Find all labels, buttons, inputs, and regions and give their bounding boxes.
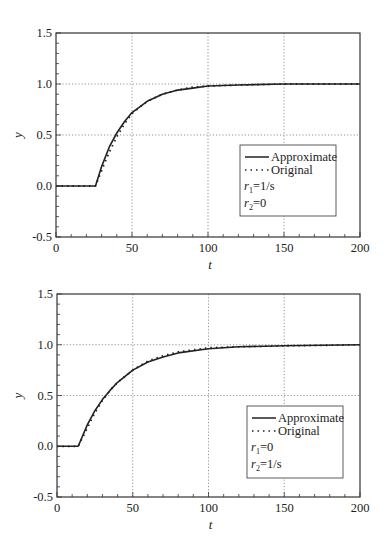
legend-approximate: Approximate	[278, 411, 344, 425]
chart-svg: 050100150200-0.50.00.51.01.5 t y Approxi…	[0, 0, 387, 555]
y-tick-label: 0.5	[37, 389, 53, 403]
bottom-chart: 050100150200-0.50.00.51.01.5 t y Approxi…	[0, 0, 387, 555]
x-axis-label: t	[209, 517, 213, 532]
x-tick-label: 200	[351, 501, 370, 515]
x-tick-label: 150	[275, 501, 294, 515]
legend: Approximate Original r1=0 r2=1/s	[247, 406, 344, 478]
x-tick-label: 50	[127, 501, 140, 515]
y-tick-label: 1.5	[37, 287, 53, 301]
tick-labels: 050100150200-0.50.00.51.01.5	[33, 287, 369, 515]
x-tick-label: 0	[54, 501, 60, 515]
x-tick-label: 100	[199, 501, 218, 515]
y-tick-label: 1.0	[37, 338, 53, 352]
y-tick-label: 0.0	[37, 439, 53, 453]
y-axis-label: y	[10, 392, 25, 400]
legend-original: Original	[278, 424, 320, 438]
legend-r1: r1=0	[251, 440, 273, 456]
legend-r2: r2=1/s	[251, 457, 282, 473]
y-tick-label: -0.5	[33, 490, 53, 504]
